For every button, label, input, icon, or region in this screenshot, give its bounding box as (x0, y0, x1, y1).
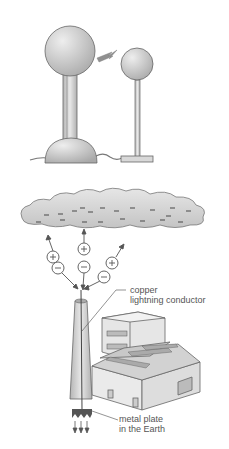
insulating-column (63, 72, 77, 140)
base-dome (45, 138, 97, 163)
van-de-graaff-generator (30, 26, 153, 163)
wire-left (30, 158, 47, 160)
diagram-canvas (0, 0, 229, 449)
storm-cloud (21, 188, 204, 228)
chimney-with-conductor (70, 290, 92, 433)
ion-charges (46, 229, 124, 290)
door-1 (108, 390, 113, 398)
wire-connect (96, 154, 122, 159)
base-plate (121, 156, 153, 162)
label-lightning-conductor: lightning conductor (130, 295, 206, 305)
door-2 (133, 398, 138, 407)
label-copper: copper (130, 285, 158, 295)
factory (92, 312, 200, 410)
label-metal-plate: metal plate (119, 414, 163, 424)
earth-arrows (73, 421, 89, 433)
spark-icon (97, 50, 117, 62)
label-in-the-earth: in the Earth (119, 424, 165, 434)
small-rod (135, 80, 140, 157)
large-sphere (45, 26, 95, 76)
small-sphere (121, 48, 153, 80)
earth-plate (72, 409, 92, 418)
